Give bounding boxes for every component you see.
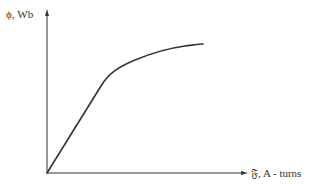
x-axis-label: 𝔉, A - turns [251,168,301,179]
y-axis-label: ϕ, Wb [6,9,33,20]
x-axis [47,171,248,175]
magnetization-curve [47,44,203,173]
y-axis-arrow-icon [45,9,49,16]
y-axis [45,9,49,173]
x-axis-arrow-icon [241,171,248,175]
magnetization-curve-figure [0,0,323,187]
